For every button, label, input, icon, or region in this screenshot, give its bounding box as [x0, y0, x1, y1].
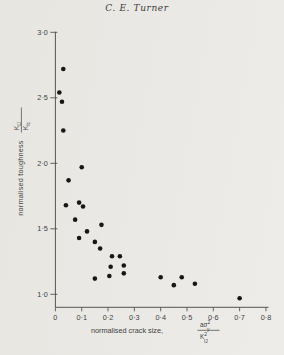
- x-tick-label: 0·1: [76, 313, 87, 322]
- data-point: [172, 283, 177, 288]
- x-tick-label: 0·4: [155, 313, 166, 322]
- data-point: [85, 229, 90, 234]
- x-tick-label: 0·8: [261, 313, 272, 322]
- y-axis-title-group: normalised toughnessKIJKIc: [13, 108, 32, 216]
- data-point: [77, 200, 82, 205]
- data-point: [61, 128, 66, 133]
- data-point: [237, 296, 242, 301]
- x-tick-label: 0·5: [182, 313, 193, 322]
- data-point: [122, 271, 127, 276]
- x-axis-fraction: aσ2yK2IJ: [198, 319, 220, 344]
- data-point: [99, 223, 104, 228]
- data-point: [93, 276, 98, 281]
- y-tick-label: 1·0: [37, 290, 48, 299]
- scatter-chart: 00·10·20·30·40·50·60·70·81·01·52·02·53·0…: [0, 0, 284, 355]
- data-point: [79, 165, 84, 170]
- x-tick-label: 0·2: [103, 313, 114, 322]
- x-fraction-denominator: K2IJ: [200, 331, 208, 343]
- data-point: [93, 240, 98, 245]
- y-axis-title: normalised toughness: [16, 140, 25, 216]
- y-tick-label: 3·0: [37, 28, 48, 37]
- data-point: [98, 246, 103, 251]
- data-point: [122, 263, 127, 268]
- y-fraction-numerator: KIJ: [13, 121, 22, 130]
- data-point: [57, 90, 62, 95]
- data-point: [193, 282, 198, 287]
- y-fraction-denominator: KIc: [22, 121, 31, 130]
- x-tick-label: 0·7: [234, 313, 245, 322]
- x-fraction-numerator: aσ2y: [200, 319, 210, 332]
- data-point: [81, 204, 86, 209]
- data-point: [77, 236, 82, 241]
- data-point: [107, 274, 112, 279]
- data-point: [158, 275, 163, 280]
- data-point: [110, 254, 115, 259]
- x-axis-title: normalised crack size,: [91, 326, 163, 335]
- x-tick-label: 0: [53, 313, 57, 322]
- data-point: [108, 264, 113, 269]
- data-point: [179, 275, 184, 280]
- data-point: [61, 67, 66, 72]
- axis-lines: [55, 32, 268, 308]
- y-tick-label: 2·5: [37, 93, 48, 102]
- y-tick-label: 1·5: [37, 224, 48, 233]
- data-point: [118, 254, 123, 259]
- data-point: [73, 217, 78, 222]
- x-tick-label: 0·3: [129, 313, 140, 322]
- data-point: [60, 99, 65, 104]
- data-point: [66, 178, 71, 183]
- y-tick-label: 2·0: [37, 159, 48, 168]
- scanned-page: C. E. Turner 00·10·20·30·40·50·60·70·81·…: [0, 0, 284, 355]
- data-point: [64, 203, 69, 208]
